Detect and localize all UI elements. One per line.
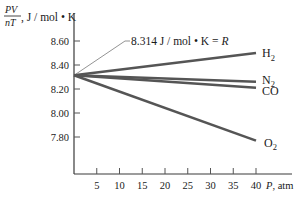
y-label-units: , J / mol • K	[21, 11, 77, 24]
series-label-co: CO	[262, 84, 279, 98]
x-tick-label: 10	[114, 180, 125, 191]
y-label-numerator: PV	[4, 4, 19, 15]
y-axis-label: PV nT , J / mol • K	[4, 4, 77, 28]
x-tick-label: 25	[183, 180, 194, 191]
x-axis-label: P, atm	[265, 180, 293, 191]
y-tick-label: 7.80	[51, 132, 69, 143]
series-label-o2: O2	[264, 136, 277, 153]
annotation-symbol: R	[220, 35, 228, 47]
series-label-main: CO	[262, 84, 279, 98]
annotation-text: 8.314 J / mol • K =	[131, 35, 221, 47]
x-tick-label: 15	[137, 180, 148, 191]
chart: PV nT , J / mol • K 8.608.408.208.007.80…	[0, 0, 302, 200]
x-label-units: , atm	[272, 180, 293, 191]
series-label-h2: H2	[262, 46, 275, 63]
y-tick-label: 8.60	[51, 36, 69, 47]
series-labels: H2N2COO2	[262, 46, 279, 152]
series-label-main: H	[262, 46, 271, 60]
x-tick-label: 40	[251, 180, 262, 191]
x-tick-label: 5	[94, 180, 99, 191]
series-label-subscript: 2	[271, 53, 275, 63]
x-tick-label: 35	[228, 180, 239, 191]
annotation-r-value: 8.314 J / mol • K = R	[131, 35, 228, 47]
series-line-h2	[74, 53, 256, 75]
series-lines	[74, 53, 256, 141]
x-ticks: 510152025303540	[94, 168, 261, 191]
y-tick-label: 8.40	[51, 60, 69, 71]
y-label-denominator: nT	[5, 17, 17, 28]
series-label-main: O	[264, 136, 273, 150]
y-tick-label: 8.20	[51, 84, 69, 95]
y-ticks: 8.608.408.208.007.80	[51, 36, 80, 143]
series-label-subscript: 2	[273, 142, 277, 152]
x-tick-label: 30	[205, 180, 216, 191]
y-tick-label: 8.00	[51, 108, 69, 119]
x-tick-label: 20	[160, 180, 171, 191]
